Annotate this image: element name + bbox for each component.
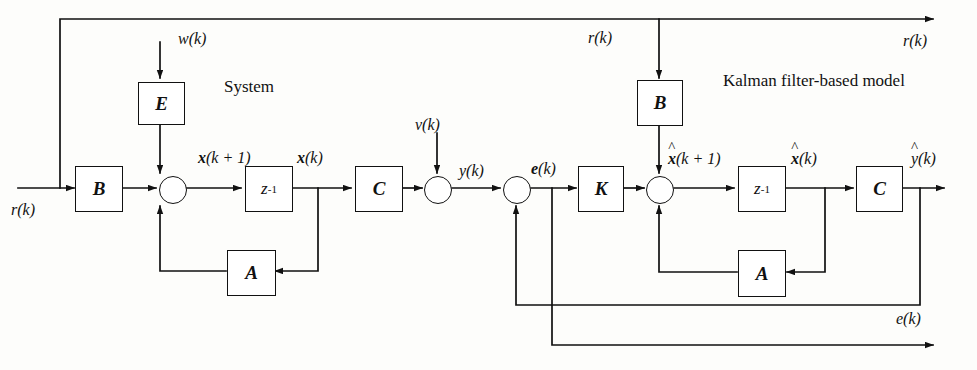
block-diagram: E B z-1 A C B K z-1 A C w(k) System Kalm… — [0, 0, 977, 370]
label-yhat-k: y(k) — [911, 151, 936, 167]
label-r-k-top-right: r(k) — [903, 33, 927, 49]
delay-right-base: z — [754, 179, 761, 199]
block-delay-right[interactable]: z-1 — [738, 166, 786, 212]
summing-junction-estimator[interactable] — [646, 176, 674, 204]
label-xhat-k-plus-1: x(k + 1) — [668, 151, 721, 167]
block-e[interactable]: E — [138, 82, 185, 125]
label-xhat-k: x(k) — [791, 151, 817, 167]
label-r-k-top-mid: r(k) — [588, 30, 612, 46]
label-r-k-input: r(k) — [11, 202, 35, 218]
block-b-left[interactable]: B — [75, 166, 123, 212]
block-c-left[interactable]: C — [355, 166, 403, 212]
block-a-right[interactable]: A — [738, 250, 786, 297]
summing-junction-state[interactable] — [159, 176, 187, 204]
label-v-k: v(k) — [415, 117, 440, 133]
delay-left-exponent: -1 — [268, 183, 277, 195]
delay-right-exponent: -1 — [761, 183, 770, 195]
label-x-k-plus-1: x(k + 1) — [198, 150, 251, 166]
block-k[interactable]: K — [578, 166, 624, 212]
delay-left-base: z — [261, 179, 268, 199]
summing-junction-measurement[interactable] — [424, 176, 452, 204]
wire-a-right-to-sum-est — [659, 206, 737, 272]
block-delay-left[interactable]: z-1 — [245, 166, 293, 212]
label-w-k: w(k) — [178, 31, 206, 47]
block-b-right[interactable]: B — [637, 80, 683, 126]
label-e-k: e(k) — [531, 161, 556, 177]
block-c-right[interactable]: C — [856, 166, 903, 212]
wire-layer — [0, 0, 977, 370]
wire-a-left-to-sum1 — [160, 206, 226, 271]
wire-xhat-branch-down — [787, 188, 825, 272]
label-e-k-output: e(k) — [896, 311, 921, 327]
block-a-left[interactable]: A — [227, 250, 276, 296]
label-y-k: y(k) — [459, 163, 484, 179]
label-x-k: x(k) — [297, 150, 323, 166]
label-kalman-model: Kalman filter-based model — [723, 72, 905, 89]
label-system: System — [224, 78, 274, 95]
summing-junction-error[interactable] — [503, 176, 531, 204]
